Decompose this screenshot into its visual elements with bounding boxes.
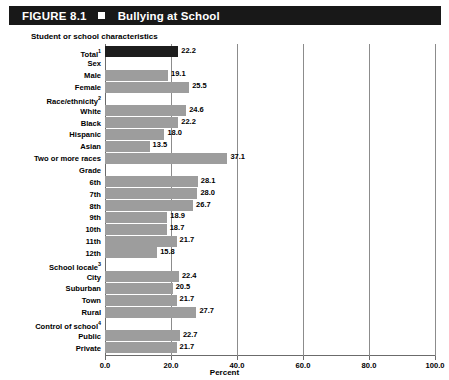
bar-public bbox=[105, 330, 180, 341]
bar-row: 18.9 bbox=[105, 212, 435, 223]
x-tick-0-0 bbox=[105, 356, 106, 360]
bar-row: 19.1 bbox=[105, 70, 435, 81]
category-label-sex: Sex bbox=[0, 59, 101, 68]
bar-value-label: 25.5 bbox=[192, 81, 207, 90]
bar-asian bbox=[105, 141, 150, 152]
category-label-town: Town bbox=[0, 296, 101, 305]
bar-total bbox=[105, 46, 178, 57]
bar-hispanic bbox=[105, 129, 164, 140]
category-label-white: White bbox=[0, 107, 101, 116]
bar-row: 22.7 bbox=[105, 330, 435, 341]
figure-number: FIGURE 8.1 bbox=[22, 10, 87, 22]
plot-area: 22.219.125.524.622.218.013.537.128.128.0… bbox=[105, 44, 435, 356]
bar-row: 13.5 bbox=[105, 141, 435, 152]
bar-value-label: 13.5 bbox=[153, 140, 168, 149]
bar-value-label: 22.7 bbox=[183, 330, 198, 339]
bar-row: 21.7 bbox=[105, 295, 435, 306]
bar-row: 20.5 bbox=[105, 283, 435, 294]
category-label-grade: Grade bbox=[0, 166, 101, 175]
bar-10th bbox=[105, 224, 167, 235]
black-square-icon bbox=[98, 12, 105, 19]
category-label-public: Public bbox=[0, 332, 101, 341]
bar-white bbox=[105, 105, 186, 116]
bar-value-label: 22.4 bbox=[182, 271, 197, 280]
bar-row: 22.2 bbox=[105, 46, 435, 57]
chart-subtitle: Student or school characteristics bbox=[31, 32, 158, 41]
category-label-6th: 6th bbox=[0, 178, 101, 187]
bar-value-label: 18.7 bbox=[170, 223, 185, 232]
bar-suburban bbox=[105, 283, 173, 294]
bar-row: 22.2 bbox=[105, 117, 435, 128]
bar-value-label: 28.1 bbox=[201, 176, 216, 185]
bar-value-label: 20.5 bbox=[176, 282, 191, 291]
bar-6th bbox=[105, 176, 198, 187]
bar-row bbox=[105, 58, 435, 69]
category-label-female: Female bbox=[0, 83, 101, 92]
bar-row: 26.7 bbox=[105, 200, 435, 211]
category-label-black: Black bbox=[0, 119, 101, 128]
bar-city bbox=[105, 271, 179, 282]
category-label-rural: Rural bbox=[0, 308, 101, 317]
footnote-marker: 4 bbox=[98, 320, 101, 326]
category-label-7th: 7th bbox=[0, 190, 101, 199]
bar-value-label: 24.6 bbox=[189, 105, 204, 114]
x-axis-title: Percent bbox=[0, 368, 449, 377]
bar-male bbox=[105, 70, 168, 81]
bar-8th bbox=[105, 200, 193, 211]
category-label-control-of-school: Control of school4 bbox=[0, 320, 101, 331]
bar-value-label: 18.9 bbox=[170, 211, 185, 220]
bar-7th bbox=[105, 188, 197, 199]
bar-value-label: 18.0 bbox=[167, 128, 182, 137]
bar-row bbox=[105, 259, 435, 270]
bar-private bbox=[105, 342, 177, 353]
bar-row: 25.5 bbox=[105, 82, 435, 93]
bar-two-or-more-races bbox=[105, 153, 227, 164]
bar-row: 22.4 bbox=[105, 271, 435, 282]
bar-rural bbox=[105, 307, 196, 318]
bar-11th bbox=[105, 236, 177, 247]
figure-container: FIGURE 8.1 Bullying at School Student or… bbox=[0, 0, 449, 380]
bar-value-label: 37.1 bbox=[230, 152, 245, 161]
category-label-hispanic: Hispanic bbox=[0, 130, 101, 139]
bar-row: 18.7 bbox=[105, 224, 435, 235]
x-tick-80-0 bbox=[369, 356, 370, 360]
category-label-male: Male bbox=[0, 71, 101, 80]
footnote-marker: 3 bbox=[98, 261, 101, 267]
bar-row: 28.1 bbox=[105, 176, 435, 187]
x-tick-60-0 bbox=[303, 356, 304, 360]
category-label-city: City bbox=[0, 273, 101, 282]
bar-row bbox=[105, 318, 435, 329]
category-label-8th: 8th bbox=[0, 202, 101, 211]
bar-value-label: 22.2 bbox=[181, 46, 196, 55]
footnote-marker: 1 bbox=[98, 48, 101, 54]
bar-9th bbox=[105, 212, 167, 223]
category-label-suburban: Suburban bbox=[0, 284, 101, 293]
bar-value-label: 27.7 bbox=[199, 306, 214, 315]
category-label-private: Private bbox=[0, 344, 101, 353]
bar-row bbox=[105, 164, 435, 175]
category-label-10th: 10th bbox=[0, 225, 101, 234]
bar-row: 21.7 bbox=[105, 342, 435, 353]
bar-rows-group: 22.219.125.524.622.218.013.537.128.128.0… bbox=[105, 44, 435, 356]
bar-row: 28.0 bbox=[105, 188, 435, 199]
bar-row: 27.7 bbox=[105, 307, 435, 318]
bar-row: 15.8 bbox=[105, 247, 435, 258]
gridline-100-0 bbox=[435, 44, 436, 356]
bar-value-label: 28.0 bbox=[200, 188, 215, 197]
category-label-two-or-more-races: Two or more races bbox=[0, 154, 101, 163]
bar-row: 18.0 bbox=[105, 129, 435, 140]
category-label-total: Total1 bbox=[0, 48, 101, 59]
figure-header-banner: FIGURE 8.1 Bullying at School bbox=[9, 6, 441, 25]
category-label-school-locale: School locale3 bbox=[0, 261, 101, 272]
bar-row bbox=[105, 93, 435, 104]
bar-12th bbox=[105, 247, 157, 258]
bar-town bbox=[105, 295, 177, 306]
figure-title: Bullying at School bbox=[118, 10, 220, 22]
category-label-race-ethnicity: Race/ethnicity2 bbox=[0, 95, 101, 106]
bar-value-label: 22.2 bbox=[181, 117, 196, 126]
bar-value-label: 15.8 bbox=[160, 247, 175, 256]
category-label-11th: 11th bbox=[0, 237, 101, 246]
bar-value-label: 19.1 bbox=[171, 69, 186, 78]
footnote-marker: 2 bbox=[98, 95, 101, 101]
x-tick-40-0 bbox=[237, 356, 238, 360]
